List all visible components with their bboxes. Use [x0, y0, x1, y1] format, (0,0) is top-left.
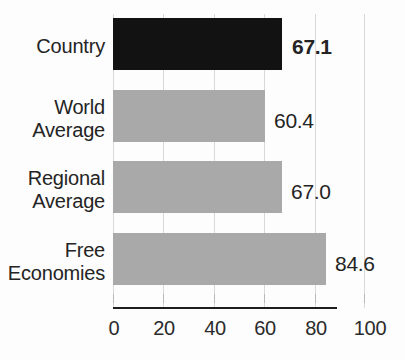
category-label-free-economies: Free Economies: [0, 239, 105, 285]
tick-20: [163, 294, 164, 303]
category-label-world-average-line2: Average: [0, 119, 105, 142]
tick-100: [364, 294, 365, 303]
value-label-world-average: 60.4: [274, 110, 314, 131]
category-label-country-line1: Country: [0, 35, 105, 58]
x-tick-label-40: 40: [204, 318, 226, 338]
tick-40: [214, 294, 215, 303]
x-tick-label-100: 100: [354, 318, 386, 338]
bar-country[interactable]: [113, 18, 282, 70]
category-label-regional-average-line2: Average: [0, 190, 105, 213]
value-label-country: 67.1: [292, 36, 332, 57]
bar-row-world-average: [113, 90, 265, 142]
x-tick-label-60: 60: [254, 318, 276, 338]
category-label-regional-average: Regional Average: [0, 167, 105, 213]
value-label-regional-average: 67.0: [291, 181, 331, 202]
bar-row-regional-average: [113, 161, 282, 213]
bar-free-economies[interactable]: [113, 233, 326, 285]
x-tick-label-20: 20: [153, 318, 175, 338]
category-label-world-average: World Average: [0, 96, 105, 142]
value-label-free-economies: 84.6: [335, 253, 375, 274]
bar-row-free-economies: [113, 233, 326, 285]
tick-80: [315, 294, 316, 303]
category-label-country: Country: [0, 35, 105, 58]
category-label-world-average-line1: World: [0, 96, 105, 119]
category-label-free-economies-line1: Free: [0, 239, 105, 262]
tick-0: [113, 294, 114, 303]
bar-row-country: [113, 18, 282, 70]
x-tick-label-0: 0: [109, 318, 120, 338]
category-label-regional-average-line1: Regional: [0, 167, 105, 190]
bar-regional-average[interactable]: [113, 161, 282, 213]
bar-chart: Country 67.1 World Average 60.4 Regional…: [0, 0, 405, 360]
tick-60: [264, 294, 265, 303]
bar-world-average[interactable]: [113, 90, 265, 142]
category-label-free-economies-line2: Economies: [0, 262, 105, 285]
x-axis-line: [113, 307, 337, 309]
x-tick-label-80: 80: [305, 318, 327, 338]
